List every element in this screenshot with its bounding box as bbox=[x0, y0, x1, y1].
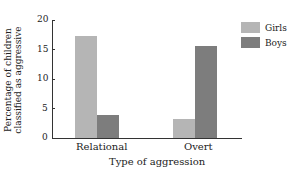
legend-label-boys: Boys bbox=[265, 38, 287, 48]
bar-girls-relational bbox=[75, 36, 97, 138]
x-tick-overt: Overt bbox=[184, 141, 213, 152]
y-tick-5: 5 bbox=[42, 103, 48, 113]
y-label-line1: Percentage of children bbox=[3, 15, 13, 145]
bar-girls-overt bbox=[173, 119, 195, 138]
y-tick-15: 15 bbox=[37, 44, 48, 54]
legend-swatch-girls bbox=[241, 22, 260, 33]
legend-swatch-boys bbox=[241, 37, 260, 48]
x-tick-relational: Relational bbox=[76, 141, 127, 152]
tick bbox=[52, 20, 55, 21]
tick bbox=[52, 108, 55, 109]
tick bbox=[52, 49, 55, 50]
y-tick-10: 10 bbox=[37, 73, 48, 83]
chart: Percentage of children classified as agg… bbox=[0, 0, 298, 172]
bar-boys-overt bbox=[195, 46, 217, 138]
x-axis bbox=[52, 138, 242, 139]
y-label-line2: classified as aggressive bbox=[13, 15, 23, 145]
bar-boys-relational bbox=[97, 115, 119, 138]
y-axis-label: Percentage of children classified as agg… bbox=[3, 15, 23, 145]
y-tick-20: 20 bbox=[37, 14, 48, 24]
x-axis-label: Type of aggression bbox=[109, 156, 205, 167]
tick bbox=[52, 79, 55, 80]
legend-label-girls: Girls bbox=[265, 23, 287, 33]
y-tick-0: 0 bbox=[42, 132, 48, 142]
